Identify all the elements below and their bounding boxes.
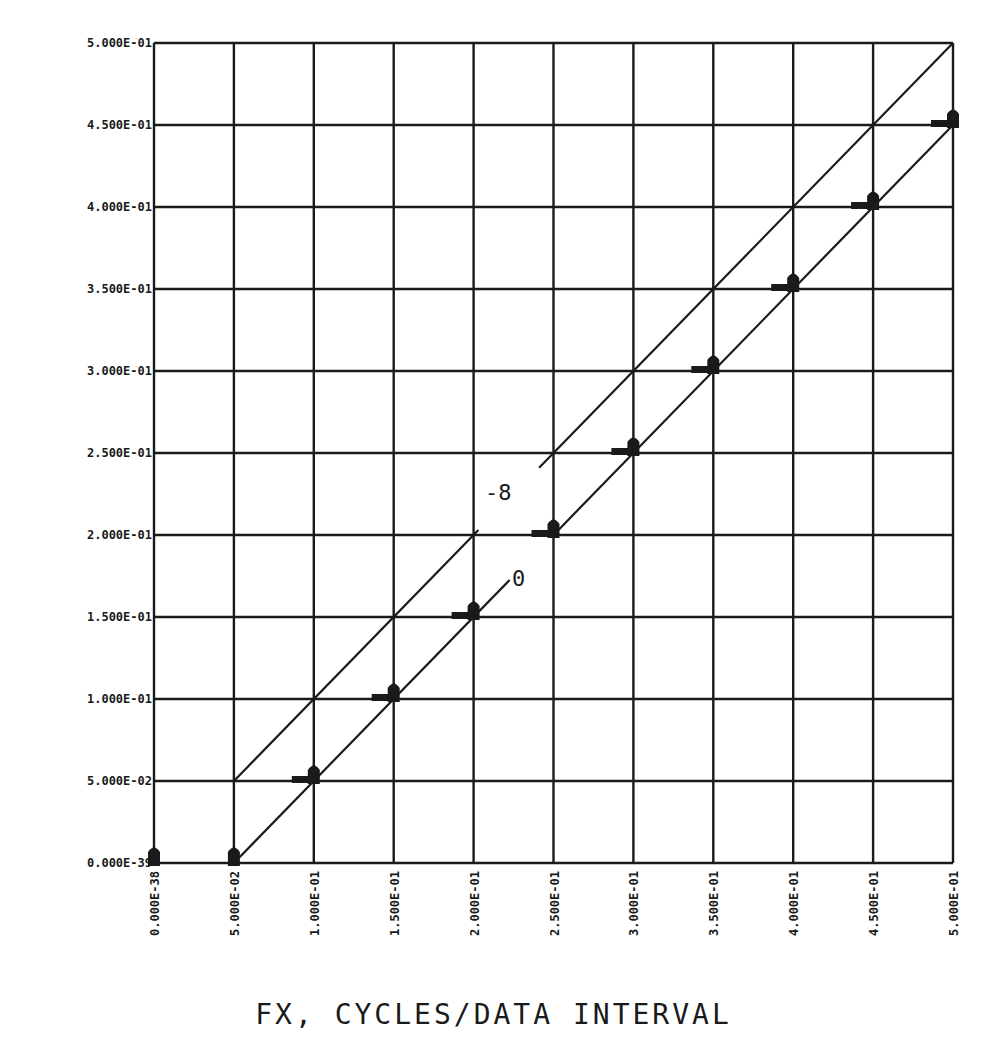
y-tick-label: 1.000E-01	[87, 692, 152, 706]
y-tick-label: 1.500E-01	[87, 610, 152, 624]
x-tick-label: 0.000E-38	[148, 871, 162, 936]
data-marker	[452, 602, 480, 621]
line-zero-segment-a	[234, 580, 510, 863]
y-tick-label: 0.000E-39	[87, 856, 152, 870]
data-marker	[532, 520, 560, 539]
y-tick-label: 2.500E-01	[87, 446, 152, 460]
x-tick-labels: 0.000E-385.000E-021.000E-011.500E-012.00…	[148, 871, 961, 936]
data-marker	[372, 684, 400, 703]
x-tick-label: 1.000E-01	[308, 871, 322, 936]
x-tick-label: 3.500E-01	[707, 871, 721, 936]
y-tick-label: 3.000E-01	[87, 364, 152, 378]
x-tick-label: 4.000E-01	[787, 871, 801, 936]
line-minus8-segment-b	[539, 43, 953, 468]
line-label-zero: 0	[512, 566, 525, 591]
y-tick-label: 4.000E-01	[87, 200, 152, 214]
line-label-minus8: -8	[485, 480, 512, 505]
data-marker	[931, 110, 959, 129]
x-tick-label: 2.000E-01	[468, 871, 482, 936]
chart-canvas: 0.000E-395.000E-021.000E-011.500E-012.00…	[0, 0, 987, 1048]
y-tick-label: 4.500E-01	[87, 118, 152, 132]
line-minus8-segment-a	[234, 530, 478, 781]
y-tick-labels: 0.000E-395.000E-021.000E-011.500E-012.00…	[87, 36, 152, 870]
x-tick-label: 1.500E-01	[388, 871, 402, 936]
x-axis-title: FX, CYCLES/DATA INTERVAL	[0, 998, 987, 1031]
x-tick-label: 5.000E-01	[947, 871, 961, 936]
line-zero-segment-b	[557, 125, 953, 531]
data-marker	[611, 438, 639, 457]
data-marker	[292, 766, 320, 785]
data-marker	[228, 848, 240, 867]
y-tick-label: 5.000E-01	[87, 36, 152, 50]
data-marker	[851, 192, 879, 211]
x-tick-label: 4.500E-01	[867, 871, 881, 936]
x-tick-label: 3.000E-01	[627, 871, 641, 936]
data-marker	[691, 356, 719, 375]
x-tick-label: 5.000E-02	[228, 871, 242, 936]
y-tick-label: 5.000E-02	[87, 774, 152, 788]
x-tick-label: 2.500E-01	[548, 871, 562, 936]
y-tick-label: 2.000E-01	[87, 528, 152, 542]
data-marker	[771, 274, 799, 293]
y-tick-label: 3.500E-01	[87, 282, 152, 296]
